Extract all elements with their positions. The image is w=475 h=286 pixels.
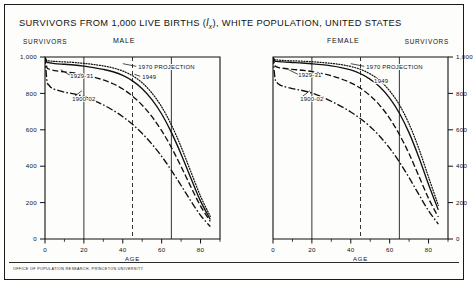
y-tick-label: 800 [26,90,37,97]
y-tick-label: 400 [26,162,37,169]
curve-1970-projection [273,57,438,205]
y-tick-label: 0 [33,235,37,242]
y-tick-label: 400 [456,162,467,169]
y-tick-label: 1,000 [456,53,473,60]
curve-1900-02 [273,57,438,224]
annotation-label: 1900-02 [300,96,323,102]
x-tick-label: 0 [43,246,47,253]
annotation-label: 1929-31 [298,72,321,78]
annotation-leader [134,74,140,76]
y-tick-label: 600 [26,126,37,133]
y-tick-label: 800 [456,90,467,97]
panel-male: 02004006008001,000020406080AGE1900-02192… [5,49,247,281]
footer-credit: OFFICE OF POPULATION RESEARCH, PRINCETON… [13,267,143,271]
annotation-leader [351,64,365,67]
survivors-label-right: SURVIVORS [405,38,449,45]
annotation-1949: 1949 [362,74,388,84]
survivorship-curves [273,57,438,224]
curve-1900-02 [45,57,210,227]
x-tick-label: 0 [271,246,275,253]
annotation-label: 1900-02 [72,96,95,102]
survivors-label-left: SURVIVORS [23,38,67,45]
x-tick-label: 80 [425,246,433,253]
x-tick-label: 80 [197,246,205,253]
x-tick-label: 20 [308,246,316,253]
y-tick-label: 1,000 [20,53,37,60]
x-tick-label: 20 [80,246,88,253]
chart-title-post: ), WHITE POPULATION, UNITED STATES [212,18,401,28]
curve-1929-31 [45,57,210,221]
panel-header-male: MALE [113,37,135,44]
annotation-1929-31: 1929-31 [61,70,94,79]
x-tick-label: 40 [347,246,355,253]
annotation-label: 1949 [374,78,388,84]
panel-header-female: FEMALE [327,37,360,44]
x-axis-ticks [45,239,220,244]
annotation-label: 1970 PROJECTION [138,64,194,70]
chart-title: SURVIVORS FROM 1,000 LIVE BIRTHS (lx), W… [19,17,402,30]
chart-frame: SURVIVORS FROM 1,000 LIVE BIRTHS (lx), W… [4,4,464,280]
annotation-1970-projection: 1970 PROJECTION [351,64,423,70]
annotation-leader [362,74,372,81]
footer-divider [9,262,459,263]
curve-1949 [45,57,210,219]
annotation-leader [123,64,137,67]
panel-plot-male: 02004006008001,000020406080AGE1900-02192… [5,49,247,277]
y-tick-label: 600 [456,126,467,133]
panel-female: 02004006008001,000020406080AGE1900-02192… [233,49,475,281]
x-tick-label: 60 [386,246,394,253]
annotation-1970-projection: 1970 PROJECTION [123,64,195,70]
y-axis-ticks [40,57,45,239]
annotation-leader [61,70,71,76]
annotation-label: 1929-31 [70,73,93,79]
x-axis-ticks [273,239,448,244]
curve-1929-31 [273,57,438,217]
y-tick-label: 200 [26,199,37,206]
x-tick-label: 60 [158,246,166,253]
y-axis-ticks [448,57,453,239]
y-tick-label: 0 [456,235,460,242]
annotation-label: 1949 [142,74,156,80]
x-tick-label: 40 [119,246,127,253]
panel-plot-female: 02004006008001,000020406080AGE1900-02192… [233,49,475,277]
annotation-label: 1970 PROJECTION [366,64,422,70]
chart-title-pre: SURVIVORS FROM 1,000 LIVE BIRTHS ( [19,18,206,28]
survivorship-curves [45,57,210,227]
y-tick-label: 200 [456,199,467,206]
